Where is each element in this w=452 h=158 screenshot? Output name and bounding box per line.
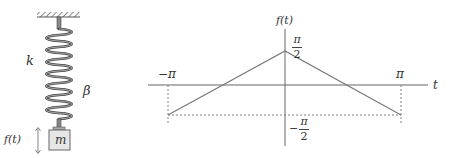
bottom-rod [57, 119, 61, 128]
ceiling-hatch [37, 12, 80, 17]
diagram-canvas [0, 0, 452, 158]
y-axis-label: f(t) [276, 15, 293, 26]
x-neg-pi-label: −π [158, 68, 176, 80]
force-label: f(t) [4, 134, 21, 145]
y-max-denominator: 2 [294, 49, 301, 61]
damping-label: β [83, 84, 91, 97]
x-pos-pi-label: π [396, 68, 404, 80]
function-graph [148, 29, 428, 146]
y-min-denominator: 2 [301, 131, 308, 143]
y-max-numerator: π [293, 34, 300, 46]
y-min-numerator: π [300, 116, 307, 128]
y-max-label: π 2 [292, 34, 302, 60]
spring-constant-label: k [26, 54, 34, 67]
mass-label: m [55, 134, 66, 146]
y-min-label: π 2 [299, 116, 309, 142]
y-min-sign: − [289, 123, 298, 134]
double-arrow-icon [36, 128, 41, 154]
spring-coil [46, 29, 72, 119]
x-axis-label: t [433, 79, 438, 91]
top-rod [57, 17, 61, 29]
